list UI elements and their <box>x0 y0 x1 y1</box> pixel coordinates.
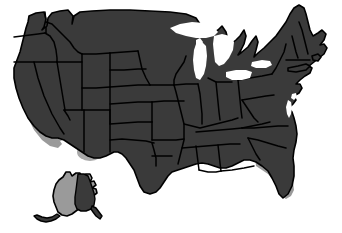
us-map-container <box>0 0 342 233</box>
us-map-svg[interactable] <box>0 0 342 233</box>
aleutian-islands <box>34 214 60 222</box>
border-fl-al <box>199 170 221 172</box>
contiguous-us-layer[interactable] <box>14 5 327 198</box>
cape-cod[interactable] <box>312 54 321 61</box>
alaska-inset[interactable] <box>34 172 102 222</box>
alaska-panhandle <box>91 206 102 219</box>
